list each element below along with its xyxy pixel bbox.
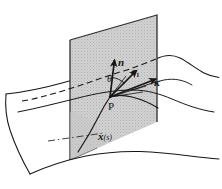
figure-canvas: n θ e1 κ P x(s) bbox=[0, 0, 222, 189]
label-curve-x-of-s: x(s) bbox=[98, 131, 112, 142]
label-curvature-vector: κ bbox=[154, 77, 160, 88]
label-point-p: P bbox=[108, 101, 114, 112]
label-tangent-vector: e1 bbox=[131, 66, 139, 77]
label-normal-vector: n bbox=[118, 57, 124, 68]
label-tangent-vector-subscript: 1 bbox=[136, 71, 140, 79]
label-angle-theta: θ bbox=[107, 74, 112, 84]
point-p-marker bbox=[109, 96, 111, 98]
label-curve-argument: (s) bbox=[104, 133, 112, 142]
geometry-diagram-svg bbox=[0, 0, 222, 189]
